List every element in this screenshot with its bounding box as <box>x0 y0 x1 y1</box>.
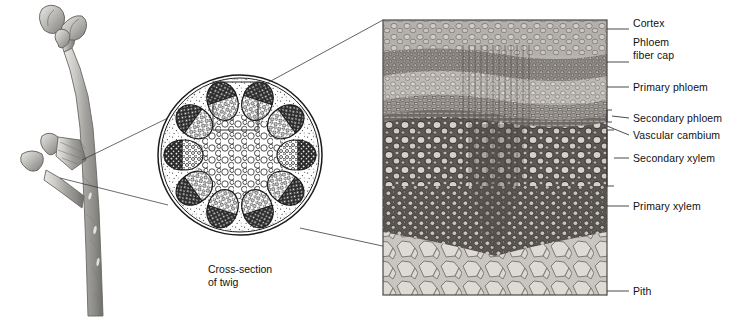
label-cortex: Cortex <box>633 17 665 30</box>
stem-micrograph <box>383 20 607 295</box>
twig-illustration <box>21 5 103 316</box>
caption-line-2: of twig <box>208 276 272 289</box>
label-vascular-cambium: Vascular cambium <box>633 129 720 142</box>
figure-canvas <box>0 0 730 317</box>
lateral-bud <box>21 133 86 171</box>
stem-cross-section <box>158 75 322 235</box>
caption-line-1: Cross-section <box>208 263 272 276</box>
leader-secondary-phloem <box>612 116 629 118</box>
bracket-secondary-xylem <box>607 130 614 186</box>
terminal-bud <box>39 5 86 48</box>
label-phloem-fiber-cap-line2: fiber cap <box>633 49 674 62</box>
label-secondary-phloem: Secondary phloem <box>633 112 722 125</box>
leader-vascular-cambium <box>607 126 629 135</box>
label-leaders <box>607 29 629 291</box>
figure-root: Cortex Phloem fiber cap Primary phloem S… <box>0 0 730 317</box>
label-secondary-xylem: Secondary xylem <box>633 152 715 165</box>
label-pith: Pith <box>633 285 652 298</box>
label-primary-xylem: Primary xylem <box>633 200 701 213</box>
bracket-secondary-phloem <box>607 110 612 122</box>
label-primary-phloem: Primary phloem <box>633 81 708 94</box>
label-phloem-fiber-cap-line1: Phloem <box>633 36 669 49</box>
cross-section-caption: Cross-section of twig <box>208 263 272 289</box>
